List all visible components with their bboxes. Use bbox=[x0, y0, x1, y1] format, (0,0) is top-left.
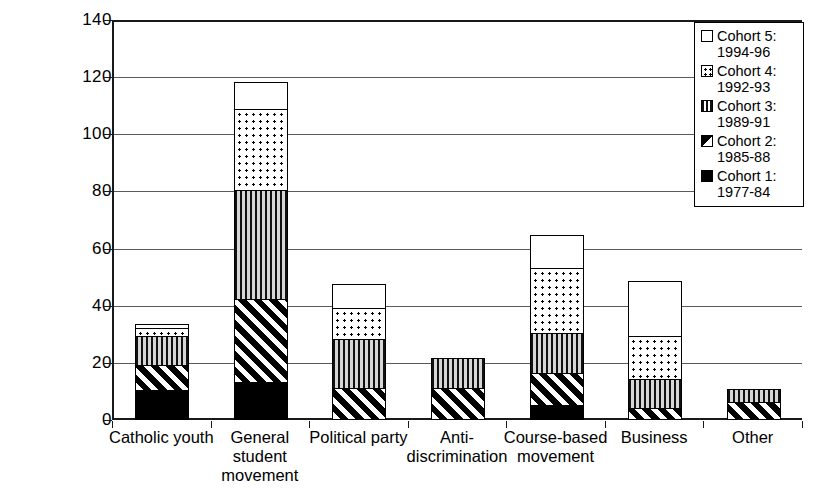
legend-swatch-white-icon bbox=[701, 30, 713, 42]
stacked-bar-chart: 020406080100120140 Catholic youthGeneral… bbox=[0, 0, 820, 490]
y-tick-mark-0 bbox=[103, 420, 112, 421]
bar-stack[interactable] bbox=[727, 389, 781, 420]
bar-stack[interactable] bbox=[530, 235, 584, 420]
bar-segment[interactable] bbox=[531, 268, 583, 334]
chart-legend: Cohort 5:1994-96Cohort 4:1992-93Cohort 3… bbox=[694, 22, 804, 207]
bar-segment[interactable] bbox=[531, 236, 583, 267]
bar-segment[interactable] bbox=[531, 333, 583, 373]
legend-swatch-diagonal-hatch-icon bbox=[701, 135, 713, 147]
bar-segment[interactable] bbox=[432, 388, 484, 419]
y-tick-mark-140 bbox=[103, 20, 112, 21]
bar-segment[interactable] bbox=[333, 285, 385, 308]
legend-label: Cohort 1:1977-84 bbox=[717, 168, 777, 200]
legend-swatch-vertical-lines-icon bbox=[701, 100, 713, 112]
legend-label-line2: 1994-96 bbox=[717, 44, 777, 60]
x-tick bbox=[506, 421, 507, 428]
legend-item[interactable]: Cohort 5:1994-96 bbox=[701, 28, 798, 60]
bar-segment[interactable] bbox=[728, 402, 780, 419]
x-axis-label-line: student bbox=[201, 447, 319, 466]
y-tick-mark-60 bbox=[103, 249, 112, 250]
legend-label-line2: 1992-93 bbox=[717, 79, 777, 95]
legend-label-line1: Cohort 1: bbox=[717, 168, 777, 184]
legend-item[interactable]: Cohort 4:1992-93 bbox=[701, 63, 798, 95]
y-tick-mark-40 bbox=[103, 306, 112, 307]
legend-swatch-solid-black-icon bbox=[701, 170, 713, 182]
bar-stack[interactable] bbox=[628, 281, 682, 420]
bar-segment[interactable] bbox=[136, 390, 188, 419]
bar-segment[interactable] bbox=[531, 373, 583, 404]
bar-segment[interactable] bbox=[333, 308, 385, 339]
bar-segment[interactable] bbox=[432, 359, 484, 388]
y-tick-mark-80 bbox=[103, 191, 112, 192]
x-axis-label-line: Other bbox=[694, 428, 812, 447]
bar-segment[interactable] bbox=[629, 282, 681, 336]
bar-segment[interactable] bbox=[728, 390, 780, 401]
bar-stack[interactable] bbox=[332, 284, 386, 420]
bar-segment[interactable] bbox=[136, 328, 188, 337]
legend-label-line1: Cohort 5: bbox=[717, 28, 777, 44]
legend-label-line1: Cohort 2: bbox=[717, 133, 777, 149]
bar-segment[interactable] bbox=[235, 109, 287, 190]
y-tick-mark-20 bbox=[103, 363, 112, 364]
legend-label: Cohort 5:1994-96 bbox=[717, 28, 777, 60]
bar-segment[interactable] bbox=[333, 339, 385, 388]
y-tick-mark-120 bbox=[103, 77, 112, 78]
legend-label: Cohort 3:1989-91 bbox=[717, 98, 777, 130]
bar-segment[interactable] bbox=[235, 382, 287, 419]
bar-segment[interactable] bbox=[333, 388, 385, 419]
bar-segment[interactable] bbox=[136, 336, 188, 365]
legend-label-line2: 1985-88 bbox=[717, 149, 777, 165]
x-tick bbox=[605, 421, 606, 428]
x-axis-label-line: movement bbox=[497, 447, 615, 466]
bar-segment[interactable] bbox=[235, 83, 287, 109]
bar-segment[interactable] bbox=[235, 299, 287, 382]
legend-item[interactable]: Cohort 1:1977-84 bbox=[701, 168, 798, 200]
bar-stack[interactable] bbox=[135, 324, 189, 420]
x-tick bbox=[309, 421, 310, 428]
bar-segment[interactable] bbox=[235, 190, 287, 299]
y-tick-mark-100 bbox=[103, 134, 112, 135]
x-tick bbox=[408, 421, 409, 428]
x-tick bbox=[703, 421, 704, 428]
legend-label-line2: 1977-84 bbox=[717, 184, 777, 200]
bar-segment[interactable] bbox=[136, 365, 188, 391]
legend-item[interactable]: Cohort 3:1989-91 bbox=[701, 98, 798, 130]
bar-segment[interactable] bbox=[629, 336, 681, 379]
legend-item[interactable]: Cohort 2:1985-88 bbox=[701, 133, 798, 165]
legend-swatch-dotted-icon bbox=[701, 65, 713, 77]
legend-label-line2: 1989-91 bbox=[717, 114, 777, 130]
bar-segment[interactable] bbox=[531, 405, 583, 419]
x-tick bbox=[112, 421, 113, 428]
legend-label-line1: Cohort 4: bbox=[717, 63, 777, 79]
legend-label: Cohort 2:1985-88 bbox=[717, 133, 777, 165]
bar-stack[interactable] bbox=[431, 358, 485, 420]
bar-segment[interactable] bbox=[629, 379, 681, 408]
y-axis: 020406080100120140 bbox=[0, 20, 112, 422]
legend-label: Cohort 4:1992-93 bbox=[717, 63, 777, 95]
x-tick bbox=[802, 421, 803, 428]
x-tick bbox=[211, 421, 212, 428]
bar-segment[interactable] bbox=[629, 408, 681, 419]
x-axis-label: Other bbox=[694, 428, 812, 447]
legend-label-line1: Cohort 3: bbox=[717, 98, 777, 114]
x-axis-label-line: movement bbox=[201, 466, 319, 485]
bar-stack[interactable] bbox=[234, 82, 288, 420]
x-axis-labels: Catholic youthGeneralstudentmovementPoli… bbox=[112, 428, 802, 490]
